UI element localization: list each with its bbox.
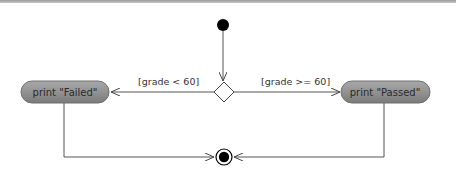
decision-node xyxy=(214,82,234,102)
initial-node xyxy=(217,19,229,31)
flow-failed-to-final xyxy=(64,103,214,157)
guard-failed: [grade < 60] xyxy=(138,76,199,87)
activity-diagram: [grade < 60] [grade >= 60] print "Failed… xyxy=(0,0,456,177)
guard-passed: [grade >= 60] xyxy=(261,76,330,87)
flow-passed-to-final xyxy=(234,103,384,157)
svg-text:print "Passed": print "Passed" xyxy=(350,87,421,98)
svg-text:print "Failed": print "Failed" xyxy=(33,87,98,98)
action-print-passed: print "Passed" xyxy=(341,81,430,103)
final-node xyxy=(216,149,232,165)
action-print-failed: print "Failed" xyxy=(21,81,109,103)
